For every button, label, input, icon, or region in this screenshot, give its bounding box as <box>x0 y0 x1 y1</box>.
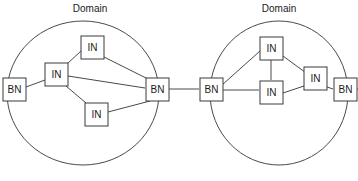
node-label: IN <box>52 69 62 80</box>
node-bn-left-west[interactable]: BN <box>3 78 26 101</box>
node-label: BN <box>205 84 219 95</box>
edge-in-right-east-to-bn-right-east <box>327 87 333 89</box>
node-label: BN <box>8 84 22 95</box>
edge-bn-right-west-to-in-right-north <box>222 51 260 85</box>
node-in-left-north[interactable]: IN <box>81 36 104 59</box>
node-label: IN <box>267 43 277 54</box>
node-bn-right-east[interactable]: BN <box>334 78 357 101</box>
node-label: IN <box>267 87 277 98</box>
edge-in-left-north-to-bn-left-east <box>104 57 148 79</box>
node-label: BN <box>339 84 353 95</box>
node-bn-right-west[interactable]: BN <box>200 78 223 101</box>
diagram-canvas: BN IN IN IN BN Domain <box>0 0 358 181</box>
node-label: IN <box>88 42 98 53</box>
node-in-left-south[interactable]: IN <box>85 103 108 126</box>
node-in-left-west[interactable]: IN <box>45 63 68 86</box>
network-diagram: BN IN IN IN BN Domain <box>0 0 358 181</box>
node-in-right-east[interactable]: IN <box>304 67 327 90</box>
edge-in-left-west-to-bn-left-east <box>68 76 145 88</box>
node-label: IN <box>311 73 321 84</box>
node-bn-left-east[interactable]: BN <box>146 78 169 101</box>
node-label: IN <box>92 109 102 120</box>
domain-left-label: Domain <box>73 3 107 14</box>
edge-in-left-west-to-in-left-north <box>68 51 81 63</box>
domain-left-group: BN IN IN IN BN Domain <box>3 3 169 165</box>
domain-right-group: BN IN IN IN BN Domain <box>200 3 357 165</box>
node-in-right-mid[interactable]: IN <box>260 81 283 104</box>
edge-in-left-west-to-in-left-south <box>66 86 86 103</box>
edge-in-left-south-to-bn-left-east <box>108 101 150 112</box>
edge-bn-left-west-to-in-left-west <box>26 80 45 87</box>
domain-right-label: Domain <box>262 3 296 14</box>
node-label: BN <box>151 84 165 95</box>
node-in-right-north[interactable]: IN <box>260 37 283 60</box>
